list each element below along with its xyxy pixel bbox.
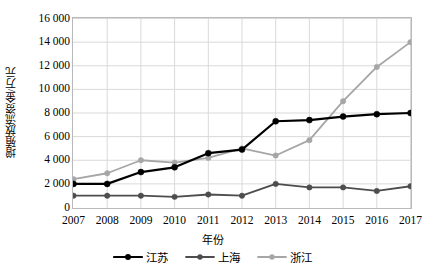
data-point xyxy=(340,114,346,120)
data-point xyxy=(239,147,245,153)
line-chart: 增殖放流资金/万元 02 0004 0006 0008 00010 00012 … xyxy=(0,0,425,272)
legend-item-上海[interactable]: 上海 xyxy=(185,249,240,265)
data-point xyxy=(206,192,211,197)
x-axis-tick-label: 2011 xyxy=(197,215,220,227)
legend-label: 浙江 xyxy=(290,249,312,265)
x-axis-tick-label: 2007 xyxy=(62,215,85,227)
data-point xyxy=(273,118,279,124)
data-point xyxy=(104,181,110,187)
plot-svg xyxy=(73,18,411,208)
data-point xyxy=(273,153,278,158)
x-axis-tick-label: 2008 xyxy=(96,215,119,227)
data-point xyxy=(374,188,379,193)
gridlines xyxy=(73,18,411,208)
y-axis-tick-label: 14 000 xyxy=(14,36,70,48)
x-axis-tick-label: 2013 xyxy=(264,215,287,227)
x-axis-tick-label: 2010 xyxy=(163,215,186,227)
x-axis-tick-label: 2016 xyxy=(365,215,388,227)
data-point xyxy=(273,181,278,186)
y-axis-tick-label: 10 000 xyxy=(14,84,70,96)
y-axis-tick-label: 0 xyxy=(14,202,70,214)
data-point xyxy=(340,185,345,190)
data-point xyxy=(307,185,312,190)
data-point xyxy=(172,194,177,199)
data-point xyxy=(408,184,411,189)
legend-marker-icon xyxy=(257,251,287,263)
data-point xyxy=(205,150,211,156)
data-point xyxy=(73,193,76,198)
data-point xyxy=(340,98,345,103)
data-point xyxy=(374,111,380,117)
data-point xyxy=(172,164,178,170)
data-point xyxy=(374,64,379,69)
x-axis-title: 年份 xyxy=(0,231,425,247)
legend-marker-icon xyxy=(113,251,143,263)
data-point xyxy=(73,181,77,187)
x-axis-tick-label: 2015 xyxy=(332,215,355,227)
y-axis-tick-label: 2 000 xyxy=(14,178,70,190)
y-axis-tick-label: 8 000 xyxy=(14,107,70,119)
x-axis-tick-label: 2014 xyxy=(298,215,321,227)
legend-item-江苏[interactable]: 江苏 xyxy=(113,249,168,265)
data-point xyxy=(307,137,312,142)
legend-marker-icon xyxy=(185,251,215,263)
plot-area xyxy=(72,17,412,209)
legend-label: 江苏 xyxy=(146,249,168,265)
y-axis-tick-label: 6 000 xyxy=(14,131,70,143)
x-axis-tick-label: 2009 xyxy=(129,215,152,227)
x-axis-tick-label: 2017 xyxy=(399,215,422,227)
data-point xyxy=(138,169,144,175)
y-axis-tick-label: 12 000 xyxy=(14,60,70,72)
y-axis-tick-label: 4 000 xyxy=(14,155,70,167)
data-point xyxy=(408,39,411,44)
data-point xyxy=(138,193,143,198)
chart-legend: 江苏上海浙江 xyxy=(0,249,425,265)
legend-label: 上海 xyxy=(218,249,240,265)
x-axis-tick-label: 2012 xyxy=(231,215,254,227)
data-point xyxy=(138,158,143,163)
data-point xyxy=(239,193,244,198)
data-point xyxy=(105,171,110,176)
y-axis-tick-label: 16 000 xyxy=(14,13,70,25)
data-point xyxy=(306,117,312,123)
data-point xyxy=(408,110,412,116)
data-point xyxy=(105,193,110,198)
legend-item-浙江[interactable]: 浙江 xyxy=(257,249,312,265)
